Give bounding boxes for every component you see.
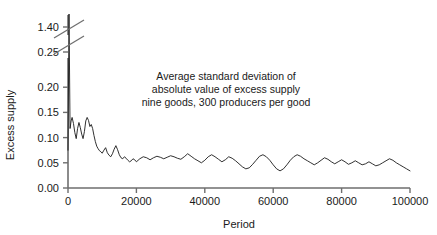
chart-container: 0.000.050.100.150.200.251.40 02000040000… — [0, 0, 437, 235]
x-tick-label-0: 0 — [65, 195, 71, 207]
x-tick-label-60000: 60000 — [258, 195, 289, 207]
y-axis-title: Excess supply — [4, 89, 16, 160]
y-tick-label-0.00: 0.00 — [38, 182, 59, 194]
y-tick-label-0.15: 0.15 — [38, 106, 59, 118]
y-tick-label-0.10: 0.10 — [38, 132, 59, 144]
x-tick-label-100000: 100000 — [392, 195, 429, 207]
x-tick-label-20000: 20000 — [121, 195, 152, 207]
annotation-line-3: nine goods, 300 producers per good — [142, 96, 311, 108]
y-tick-label-0.05: 0.05 — [38, 157, 59, 169]
y-tick-label-0.20: 0.20 — [38, 81, 59, 93]
annotation-line-1: Average standard deviation of — [156, 70, 295, 82]
y-tick-label-0.25: 0.25 — [38, 46, 59, 58]
x-axis-title: Period — [223, 218, 255, 230]
x-tick-label-80000: 80000 — [326, 195, 357, 207]
x-tick-label-40000: 40000 — [190, 195, 221, 207]
chart-annotation: Average standard deviation of absolute v… — [142, 70, 311, 108]
y-tick-label-1.40: 1.40 — [38, 21, 59, 33]
annotation-line-2: absolute value of excess supply — [152, 83, 301, 95]
excess-supply-line-chart: 0.000.050.100.150.200.251.40 02000040000… — [0, 0, 437, 235]
